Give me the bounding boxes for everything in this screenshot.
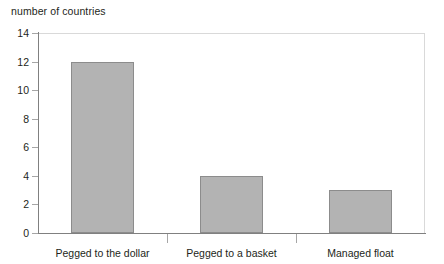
- y-axis-tick-label: 8: [3, 113, 29, 125]
- y-axis-labels: 02468101214: [0, 0, 29, 264]
- x-axis-tick: [296, 234, 297, 243]
- y-axis-tick: [32, 147, 38, 148]
- bar: [71, 62, 134, 233]
- category-label: Pegged to a basket: [186, 247, 277, 259]
- y-axis-tick: [32, 90, 38, 91]
- y-axis-tick: [32, 233, 38, 234]
- y-axis-tick: [32, 176, 38, 177]
- y-axis-tick-label: 12: [3, 56, 29, 68]
- y-axis-tick-label: 14: [3, 27, 29, 39]
- bar: [329, 190, 392, 233]
- bar-chart-figure: number of countries 02468101214 Pegged t…: [0, 0, 444, 264]
- category-label: Managed float: [327, 247, 394, 259]
- y-axis-tick-label: 2: [3, 198, 29, 210]
- y-axis-line: [38, 32, 39, 234]
- x-axis-tick: [167, 234, 168, 243]
- y-axis-tick-label: 4: [3, 170, 29, 182]
- y-axis-tick: [32, 33, 38, 34]
- x-axis-line: [38, 233, 426, 234]
- y-axis-tick: [32, 62, 38, 63]
- y-axis-tick-label: 6: [3, 141, 29, 153]
- y-axis-tick: [32, 119, 38, 120]
- y-axis-tick: [32, 204, 38, 205]
- y-axis-tick-label: 0: [3, 227, 29, 239]
- y-axis-tick-label: 10: [3, 84, 29, 96]
- bar: [200, 176, 263, 233]
- category-label: Pegged to the dollar: [56, 247, 150, 259]
